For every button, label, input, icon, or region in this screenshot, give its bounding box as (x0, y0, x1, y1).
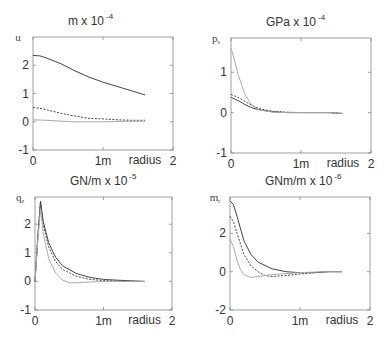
y-axis-label-subscript: s (218, 39, 221, 45)
y-axis-label: qz (16, 191, 25, 204)
axes-box (35, 197, 172, 310)
x-axis-label: radius (326, 313, 359, 327)
x-axis-label: radius (129, 153, 162, 167)
x-tick-label: 1m (292, 314, 309, 328)
y-tick-label: -1 (20, 303, 31, 317)
y-tick-label: 1 (220, 65, 227, 79)
x-tick-label: 2 (170, 154, 177, 168)
y-tick-label: 2 (24, 217, 31, 231)
y-tick-label: 0 (219, 265, 226, 279)
axes-box (33, 37, 173, 150)
y-tick-label: -1 (18, 143, 29, 157)
subplot-title: GPa x 10-4 (266, 13, 326, 29)
x-tick-label: 1m (95, 314, 112, 328)
subplot-0: -101201m2radiusm x 10-4u (15, 12, 176, 168)
series-solid-light (35, 208, 145, 282)
subplot-title: GN/m x 10-5 (70, 172, 137, 188)
series-solid-dark (35, 201, 145, 281)
x-tick-label: 0 (227, 314, 234, 328)
y-tick-label: 0 (220, 106, 227, 120)
series-solid-dark (230, 201, 342, 273)
y-axis-label-subscript: r (218, 198, 220, 204)
series-dashed-dark (231, 95, 343, 114)
y-axis-label: u (15, 31, 21, 43)
subplot-2: -101201m2radiusGN/m x 10-5qz (16, 172, 176, 328)
title-exponent: -4 (106, 12, 114, 21)
title-exponent: -5 (129, 172, 137, 181)
y-tick-label: 0 (24, 274, 31, 288)
series-dashed-dark (35, 201, 145, 281)
x-tick-label: 0 (228, 157, 235, 171)
subplot-3: -20201m2radiusGNm/m x 10-6mr (210, 172, 374, 328)
axes-box (231, 38, 371, 153)
y-axis-label: ps (212, 32, 221, 45)
x-tick-label: 2 (368, 157, 375, 171)
subplot-1: -10101m2radiusGPa x 10-4ps (212, 13, 375, 171)
x-axis-label: radius (128, 313, 161, 327)
series-solid-light (231, 48, 343, 113)
x-tick-label: 0 (30, 154, 37, 168)
x-tick-label: 0 (32, 314, 39, 328)
y-tick-label: 2 (22, 58, 29, 72)
x-tick-label: 2 (367, 314, 374, 328)
y-axis-label-subscript: z (21, 198, 24, 204)
subplot-title: m x 10-4 (68, 12, 114, 28)
series-dashed-dark (33, 108, 145, 121)
subplot-title: GNm/m x 10-6 (265, 172, 342, 188)
x-axis-label: radius (327, 156, 360, 170)
y-axis-label: mr (210, 191, 221, 204)
series-solid-dark (33, 55, 145, 95)
y-tick-label: -2 (215, 303, 226, 317)
x-tick-label: 2 (169, 314, 176, 328)
x-tick-label: 1m (293, 157, 310, 171)
x-tick-label: 1m (95, 154, 112, 168)
title-exponent: -6 (334, 172, 342, 181)
figure: -101201m2radiusm x 10-4u-10101m2radiusGP… (0, 0, 388, 344)
y-tick-label: 1 (22, 87, 29, 101)
y-tick-label: 2 (219, 226, 226, 240)
y-tick-label: -1 (216, 146, 227, 160)
y-tick-label: 0 (22, 115, 29, 129)
title-exponent: -4 (318, 13, 326, 22)
y-tick-label: 1 (24, 246, 31, 260)
